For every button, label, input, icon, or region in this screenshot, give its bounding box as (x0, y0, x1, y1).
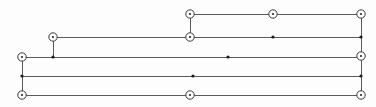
node-j-core (21, 94, 23, 96)
node-e-core (272, 13, 274, 15)
horizontal-edge-group (22, 14, 361, 95)
dot-f (359, 35, 362, 38)
node-h-core (360, 94, 362, 96)
line-diagram (0, 0, 376, 107)
node-b-core (189, 13, 191, 15)
node-d-core (189, 94, 191, 96)
node-c-core (189, 36, 191, 38)
diagram-canvas (0, 0, 376, 107)
ring-node-group (18, 10, 365, 99)
dot-c (226, 55, 229, 58)
vertical-edge-group (22, 14, 361, 95)
dot-e (20, 74, 23, 77)
dot-g (359, 74, 362, 77)
dot-d (191, 74, 194, 77)
node-g-core (360, 55, 362, 57)
dot-a (51, 55, 54, 58)
node-a-core (52, 36, 54, 38)
dot-b (271, 35, 274, 38)
node-i-core (21, 56, 23, 58)
node-f-core (360, 13, 362, 15)
